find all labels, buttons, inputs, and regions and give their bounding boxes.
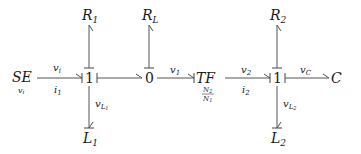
bond-junction1-right-to-c: vC: [285, 64, 329, 83]
bond-junction1-right-to-l2: vL2: [272, 86, 297, 128]
node-junction-0: 0: [145, 70, 154, 86]
svg-text:vL2: vL2: [283, 98, 297, 111]
node-l2: L2: [270, 130, 286, 148]
svg-text:v1: v1: [170, 64, 180, 77]
svg-text:i1: i1: [54, 84, 62, 97]
svg-text:vi: vi: [18, 86, 25, 95]
node-junction-1-left: 1: [85, 70, 94, 86]
svg-text:SE: SE: [12, 69, 32, 85]
node-rl: RL: [141, 7, 159, 25]
node-capacitor: C: [331, 70, 342, 86]
svg-text:N1: N1: [202, 95, 212, 103]
bond-junction0-to-rl: [144, 25, 154, 68]
bond-junction1-right-to-r2: [272, 25, 282, 68]
bond-junction0-to-tf: v1: [157, 64, 194, 83]
svg-text:vC: vC: [300, 64, 312, 77]
svg-text:v2: v2: [241, 64, 252, 77]
node-r2: R2: [269, 7, 287, 25]
svg-text:i2: i2: [242, 84, 250, 97]
bond-tf-to-junction1-right: v2 i2: [225, 64, 270, 97]
svg-text:vL1: vL1: [95, 98, 109, 111]
bond-graph-diagram: SE vi 1 0 TF N2 N1 1 C R1 RL R2 L1 L2 vi…: [0, 0, 361, 154]
bond-junction1-to-l1: vL1: [84, 86, 109, 128]
node-junction-1-right: 1: [273, 70, 282, 86]
svg-text:TF: TF: [196, 70, 216, 86]
node-se: SE vi: [12, 69, 32, 95]
node-r1: R1: [81, 7, 98, 25]
bond-junction1-to-r1: [84, 25, 94, 68]
node-l1: L1: [82, 130, 98, 148]
svg-text:vi: vi: [53, 62, 61, 75]
bond-se-to-junction1: vi i1: [37, 62, 82, 97]
bond-junction1-to-junction0: [97, 73, 142, 83]
node-transformer: TF N2 N1: [196, 70, 216, 103]
svg-text:N2: N2: [202, 86, 212, 94]
